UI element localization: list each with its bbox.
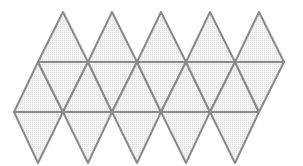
triangle [137,12,186,62]
triangle [112,112,161,163]
triangle [235,12,284,62]
triangle [63,112,112,163]
triangle [38,12,88,62]
triangle [14,112,63,163]
triangle [210,112,259,163]
triangle [88,12,137,62]
bottom-cap-triangles [14,112,259,163]
triangle [161,112,210,163]
triangle [186,12,235,62]
top-cap-triangles [38,12,284,62]
middle-band-triangles [14,62,284,112]
icosahedron-net-diagram [0,0,303,166]
